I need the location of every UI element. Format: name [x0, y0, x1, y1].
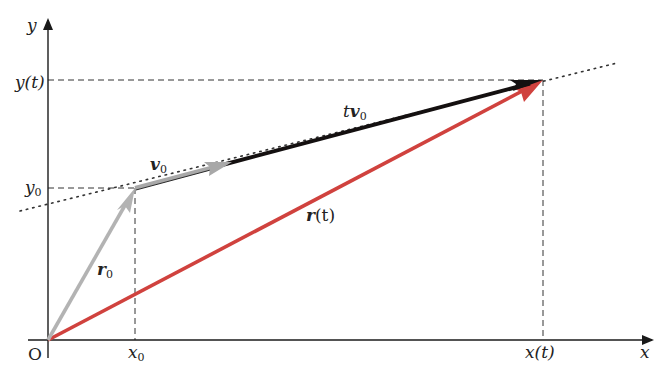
x-axis-label: x: [640, 342, 650, 362]
r0-arrowhead-icon: [117, 188, 135, 213]
tv0-label: tv0: [343, 101, 367, 123]
y-axis-label: y: [26, 15, 37, 35]
tv0-vector: [222, 80, 543, 165]
yt-tick-label: y(t): [14, 72, 45, 92]
origin-label: O: [28, 344, 42, 364]
r0-label: r0: [97, 259, 113, 281]
v0-label: v0: [150, 154, 167, 176]
xt-tick-label: x(t): [525, 342, 555, 362]
y0-tick-label: y0: [24, 177, 42, 199]
rt-label: r(t): [306, 205, 335, 225]
axes: [28, 20, 652, 358]
kinematics-diagram: y x O y(t) y0 x0 x(t) v0 tv0 r(t) r0: [0, 0, 668, 384]
x0-tick-label: x0: [128, 342, 145, 364]
